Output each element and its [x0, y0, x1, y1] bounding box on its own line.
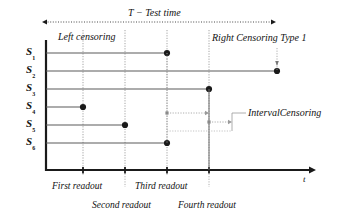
interval-bracket-arrowhead-1: [205, 111, 209, 115]
test-time-label: T − Test time: [128, 8, 181, 18]
readout-label-first: First readout: [52, 182, 102, 192]
right-censoring-arrowhead: [275, 61, 279, 66]
readout-label-third: Third readout: [135, 182, 187, 192]
interval-bracket-start-1: [165, 111, 168, 114]
subject-label-6: S6: [26, 136, 35, 149]
censoring-diagram: T − Test timeS1S2S3S4S5S6Left censoringR…: [0, 0, 350, 223]
test-time-left-arrowhead: [42, 19, 47, 24]
subject-label-2: S2: [26, 64, 35, 77]
annotation-right-censoring-type1: Right Censoring Type 1: [212, 33, 307, 43]
interval-bracket-start-2: [207, 120, 210, 123]
subject-label-4: S4: [26, 100, 35, 113]
subject-label-3: S3: [26, 82, 35, 95]
readout-label-fourth: Fourth readout: [178, 201, 236, 211]
annotation-interval-censoring: IntervalCensoring: [248, 108, 321, 118]
event-marker-4: [80, 104, 86, 110]
readout-label-second: Second readout: [92, 201, 151, 211]
subject-label-5: S5: [26, 118, 35, 131]
x-axis-arrowhead: [309, 167, 316, 174]
annotation-left-censoring: Left censoring: [58, 32, 116, 42]
subject-label-1: S1: [26, 46, 35, 59]
event-marker-5: [122, 122, 128, 128]
interval-bracket-arrowhead-2: [228, 120, 232, 124]
test-time-right-arrowhead: [271, 19, 276, 24]
x-axis-label: t: [303, 175, 306, 184]
